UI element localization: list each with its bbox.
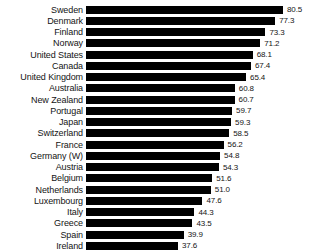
value-label: 71.2 [260,39,279,48]
value-label: 68.1 [253,50,272,59]
bar-row: New Zealand60.7 [0,94,328,105]
value-label: 47.6 [202,196,221,205]
category-label: Luxembourg [0,196,86,206]
value-label: 80.5 [283,5,302,14]
value-label: 51.6 [212,174,231,183]
category-label: Denmark [0,16,86,26]
bar [86,186,211,194]
bar [86,51,253,59]
bar-track: 39.9 [86,229,328,240]
bar-track: 73.3 [86,27,328,38]
bar-track: 58.5 [86,128,328,139]
bar-track: 54.8 [86,150,328,161]
bar [86,141,224,149]
bar [86,174,212,182]
bar-row: Germany (W)54.8 [0,150,328,161]
bar [86,129,229,137]
value-label: 37.6 [178,241,197,250]
category-label: Italy [0,207,86,217]
bar [86,163,219,171]
category-label: United States [0,50,86,60]
bar-track: 60.7 [86,94,328,105]
bar-row: Ireland37.6 [0,240,328,250]
bar [86,118,231,126]
category-label: Canada [0,61,86,71]
value-label: 39.9 [184,230,203,239]
category-label: New Zealand [0,95,86,105]
value-label: 77.3 [275,16,294,25]
category-label: Greece [0,218,86,228]
value-label: 73.3 [265,28,284,37]
bar-row: United States68.1 [0,49,328,60]
bar-row: Switzerland58.5 [0,128,328,139]
bar-row: Canada67.4 [0,60,328,71]
bar-track: 56.2 [86,139,328,150]
category-label: Portugal [0,106,86,116]
bar-track: 54.3 [86,162,328,173]
category-label: France [0,140,86,150]
bar-row: Finland73.3 [0,27,328,38]
bar-row: Italy44.3 [0,207,328,218]
category-label: Australia [0,83,86,93]
bar-row: Japan59.3 [0,117,328,128]
category-label: Switzerland [0,128,86,138]
bar-track: 71.2 [86,38,328,49]
bar-row: Sweden80.5 [0,4,328,15]
bar-row: Australia60.8 [0,83,328,94]
bar [86,208,194,216]
value-label: 59.3 [231,118,250,127]
bar-row: Netherlands51.0 [0,184,328,195]
bar-row: Greece43.5 [0,218,328,229]
bar-track: 47.6 [86,195,328,206]
value-label: 43.5 [192,219,211,228]
bar [86,197,202,205]
value-label: 58.5 [229,129,248,138]
bar-track: 67.4 [86,60,328,71]
chart-rows: Sweden80.5Denmark77.3Finland73.3Norway71… [0,4,328,250]
bar [86,6,283,14]
bar [86,62,251,70]
bar [86,231,184,239]
value-label: 54.8 [220,151,239,160]
value-label: 60.7 [235,95,254,104]
value-label: 56.2 [224,140,243,149]
category-label: Japan [0,117,86,127]
bar-row: Norway71.2 [0,38,328,49]
bar [86,28,265,36]
category-label: Sweden [0,5,86,15]
bar [86,219,192,227]
category-label: Austria [0,162,86,172]
value-label: 67.4 [251,61,270,70]
bar [86,17,275,25]
value-label: 44.3 [194,208,213,217]
bar-track: 60.8 [86,83,328,94]
bar-track: 37.6 [86,240,328,250]
bar-track: 77.3 [86,15,328,26]
bar-row: Belgium51.6 [0,173,328,184]
bar-track: 43.5 [86,218,328,229]
bar [86,96,235,104]
category-label: Germany (W) [0,151,86,161]
bar [86,152,220,160]
category-label: Belgium [0,173,86,183]
value-label: 59.7 [232,106,251,115]
bar-track: 51.6 [86,173,328,184]
bar-row: France56.2 [0,139,328,150]
bar [86,84,235,92]
bar-track: 59.3 [86,117,328,128]
category-label: Norway [0,38,86,48]
bar-row: Luxembourg47.6 [0,195,328,206]
bar-row: Denmark77.3 [0,15,328,26]
category-label: United Kingdom [0,72,86,82]
bar-track: 59.7 [86,105,328,116]
value-label: 65.4 [246,73,265,82]
bar [86,107,232,115]
category-label: Spain [0,230,86,240]
category-label: Netherlands [0,185,86,195]
bar-row: Spain39.9 [0,229,328,240]
bar-chart: Sweden80.5Denmark77.3Finland73.3Norway71… [0,0,328,250]
bar-track: 65.4 [86,72,328,83]
value-label: 51.0 [211,185,230,194]
category-label: Finland [0,27,86,37]
bar [86,242,178,250]
